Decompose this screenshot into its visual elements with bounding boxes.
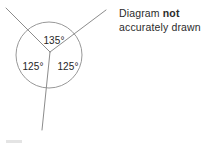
note-emphasis-not: not	[163, 7, 180, 19]
note-line-1: Diagram not	[119, 6, 213, 20]
upper-right-ray	[50, 10, 106, 52]
angle-label-right: 125°	[57, 61, 78, 72]
angle-label-top: 135°	[43, 35, 64, 46]
angle-label-left: 125°	[22, 61, 43, 72]
note-line-1-prefix: Diagram	[119, 7, 163, 19]
diagram-note: Diagram not accurately drawn	[119, 6, 213, 34]
diagram-circle	[16, 22, 82, 88]
page-edge-artifact	[6, 140, 22, 143]
note-line-2: accurately drawn	[119, 20, 213, 34]
